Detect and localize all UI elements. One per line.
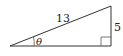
opposite-side-label: 5 bbox=[114, 21, 121, 34]
right-angle-marker bbox=[101, 37, 111, 46]
hypotenuse-label: 13 bbox=[56, 12, 70, 25]
angle-theta-label: θ bbox=[36, 36, 42, 47]
right-triangle-diagram: 13 5 θ bbox=[0, 0, 123, 56]
angle-arc bbox=[34, 37, 35, 46]
